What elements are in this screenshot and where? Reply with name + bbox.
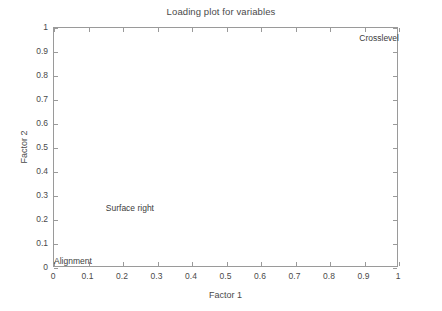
- x-tick-mark: [227, 262, 228, 266]
- y-tick-label: 0.6: [36, 118, 48, 128]
- x-tick-mark-top: [296, 28, 297, 32]
- y-tick-label: 0.5: [36, 142, 48, 152]
- x-tick-mark: [330, 262, 331, 266]
- x-tick-label: 0.6: [254, 271, 266, 281]
- x-tick-mark-top: [330, 28, 331, 32]
- y-tick-mark-right: [393, 196, 397, 197]
- y-tick-mark-right: [393, 28, 397, 29]
- x-tick-label: 0.7: [289, 271, 301, 281]
- y-tick-label: 0.4: [36, 166, 48, 176]
- y-tick-mark: [54, 148, 58, 149]
- y-tick-mark: [54, 28, 58, 29]
- loading-plot-figure: Loading plot for variables CrosslevelSur…: [0, 0, 442, 311]
- x-tick-mark-top: [261, 28, 262, 32]
- x-tick-label: 0.5: [220, 271, 232, 281]
- x-tick-label: 0.2: [116, 271, 128, 281]
- y-tick-label: 0.7: [36, 94, 48, 104]
- x-tick-label: 0.1: [82, 271, 94, 281]
- x-tick-mark-top: [89, 28, 90, 32]
- x-tick-mark: [261, 262, 262, 266]
- x-tick-mark: [399, 262, 400, 266]
- x-tick-mark-top: [227, 28, 228, 32]
- y-tick-mark-right: [393, 124, 397, 125]
- y-tick-label: 0.9: [36, 46, 48, 56]
- y-tick-mark-right: [393, 172, 397, 173]
- y-tick-mark: [54, 124, 58, 125]
- x-tick-label: 0.9: [358, 271, 370, 281]
- x-tick-label: 0.8: [323, 271, 335, 281]
- y-tick-mark-right: [393, 220, 397, 221]
- y-tick-mark-right: [393, 52, 397, 53]
- y-tick-mark: [54, 172, 58, 173]
- x-tick-mark-top: [123, 28, 124, 32]
- y-tick-label: 0.1: [36, 238, 48, 248]
- y-tick-mark: [54, 268, 58, 269]
- x-tick-mark-top: [399, 28, 400, 32]
- x-tick-mark-top: [365, 28, 366, 32]
- y-tick-mark: [54, 52, 58, 53]
- x-tick-mark: [123, 262, 124, 266]
- y-tick-mark-right: [393, 76, 397, 77]
- x-tick-mark: [296, 262, 297, 266]
- y-tick-mark: [54, 196, 58, 197]
- y-tick-mark-right: [393, 244, 397, 245]
- y-tick-mark-right: [393, 100, 397, 101]
- y-tick-label: 0.2: [36, 214, 48, 224]
- y-tick-label: 1: [43, 22, 48, 32]
- x-tick-label: 0.3: [151, 271, 163, 281]
- x-tick-mark-top: [192, 28, 193, 32]
- point-label: Alignment: [54, 256, 92, 266]
- chart-title: Loading plot for variables: [0, 6, 442, 17]
- y-tick-mark: [54, 220, 58, 221]
- y-tick-mark: [54, 76, 58, 77]
- y-tick-mark-right: [393, 268, 397, 269]
- plot-area: CrosslevelSurface rightAlignment: [53, 27, 398, 267]
- x-tick-mark: [365, 262, 366, 266]
- x-tick-label: 0: [51, 271, 56, 281]
- y-tick-mark: [54, 100, 58, 101]
- y-tick-label: 0: [43, 262, 48, 272]
- x-tick-mark: [158, 262, 159, 266]
- x-axis-label: Factor 1: [53, 290, 398, 300]
- y-tick-label: 0.8: [36, 70, 48, 80]
- x-tick-mark-top: [158, 28, 159, 32]
- x-tick-label: 0.4: [185, 271, 197, 281]
- x-tick-label: 1: [396, 271, 401, 281]
- x-tick-mark: [192, 262, 193, 266]
- point-label: Surface right: [106, 203, 154, 213]
- y-tick-label: 0.3: [36, 190, 48, 200]
- y-axis-label: Factor 2: [19, 123, 29, 171]
- y-tick-mark-right: [393, 148, 397, 149]
- y-tick-mark: [54, 244, 58, 245]
- point-label: Crosslevel: [359, 33, 399, 43]
